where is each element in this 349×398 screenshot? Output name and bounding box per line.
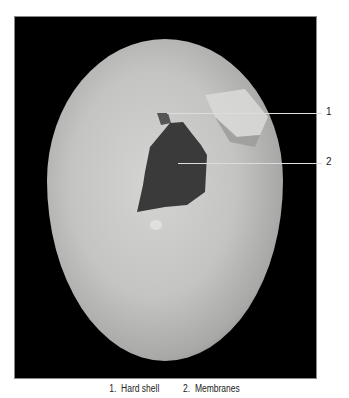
caption-item-1: 1. Hard shell (109, 383, 159, 394)
caption-item-2: 2. Membranes (183, 383, 240, 394)
label-2: 2 (326, 156, 332, 167)
leader-line-1 (167, 113, 322, 114)
leader-line-2 (178, 163, 322, 164)
figure-caption: 1. Hard shell 2. Membranes (26, 383, 323, 394)
egg-photo (14, 16, 317, 379)
egg-detail (15, 17, 317, 379)
label-1: 1 (326, 106, 332, 117)
